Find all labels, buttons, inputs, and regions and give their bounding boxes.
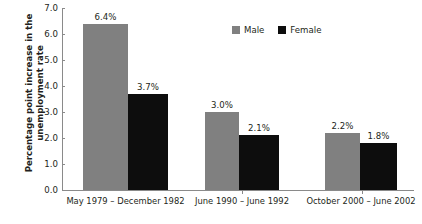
y-axis-tick-mark [62, 34, 65, 35]
bar-value-label: 2.2% [332, 122, 354, 131]
bar-value-label: 6.4% [95, 13, 117, 22]
legend-swatch-male-icon [232, 26, 240, 34]
legend-label-male: Male [244, 26, 264, 35]
y-axis-tick-mark [62, 190, 65, 191]
y-axis-tick-label: 4.0 [44, 82, 58, 91]
y-axis-tick-label: 3.0 [44, 108, 58, 117]
bar-value-label: 1.8% [368, 132, 390, 141]
bar-male-2[interactable] [325, 133, 360, 190]
bar-value-label: 2.1% [248, 124, 270, 133]
bar-female-0[interactable] [128, 94, 168, 190]
bar-female-1[interactable] [239, 135, 279, 190]
y-axis-tick-label: 5.0 [44, 56, 58, 65]
y-axis-tick-mark [62, 164, 65, 165]
y-axis-tick-mark [62, 112, 65, 113]
x-axis-group-label: October 2000 – June 2002 [306, 196, 415, 206]
x-axis-group-label: June 1990 – June 1992 [195, 196, 289, 206]
legend-item-male[interactable]: Male [232, 26, 264, 35]
legend: Male Female [232, 26, 321, 35]
y-axis-tick-mark [62, 86, 65, 87]
legend-label-female: Female [290, 26, 321, 35]
y-axis-tick-label: 2.0 [44, 134, 58, 143]
y-axis-tick-label: 1.0 [44, 160, 58, 169]
y-axis-title-line1: Percentage point increase in the [24, 14, 36, 173]
legend-item-female[interactable]: Female [278, 26, 321, 35]
plot-area: 7.06.05.04.03.02.01.00.06.4%3.7%3.0%2.1%… [62, 8, 414, 190]
bar-male-0[interactable] [83, 24, 128, 190]
y-axis-tick-mark [62, 8, 65, 9]
x-axis-separator [362, 190, 363, 194]
y-axis-tick-label: 7.0 [44, 4, 58, 13]
x-axis-group-label: May 1979 – December 1982 [66, 196, 184, 206]
bar-male-1[interactable] [205, 112, 239, 190]
y-axis-tick-mark [62, 138, 65, 139]
bar-value-label: 3.7% [137, 83, 159, 92]
bar-female-2[interactable] [360, 143, 397, 190]
y-axis-tick-label: 6.0 [44, 30, 58, 39]
y-axis-tick-mark [62, 60, 65, 61]
y-axis-tick-label: 0.0 [44, 186, 58, 195]
grouped-bar-chart: Percentage point increase in the unemplo… [0, 0, 422, 224]
bar-value-label: 3.0% [211, 101, 233, 110]
x-axis-separator [242, 190, 243, 194]
legend-swatch-female-icon [278, 26, 286, 34]
